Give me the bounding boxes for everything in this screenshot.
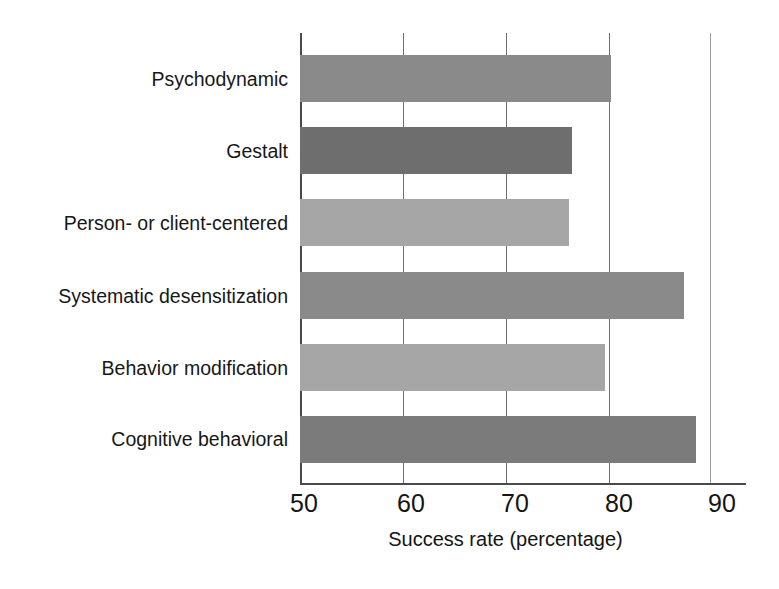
bar-systematic-desensitization [300, 272, 684, 319]
bar-gestalt [300, 127, 572, 174]
category-label-gestalt: Gestalt [0, 140, 288, 163]
bar-chart-figure: Psychodynamic Gestalt Person- or client-… [0, 0, 779, 589]
bar-person-or-client-centered [300, 199, 569, 246]
category-label-behavior-modification: Behavior modification [0, 357, 288, 380]
bar-psychodynamic [300, 55, 611, 102]
gridline-90 [710, 33, 711, 483]
x-axis-title: Success rate (percentage) [300, 528, 711, 551]
x-tick-label-60: 60 [381, 489, 441, 518]
bar-cognitive-behavioral [300, 416, 696, 463]
category-label-psychodynamic: Psychodynamic [0, 68, 288, 91]
x-tick-label-70: 70 [485, 489, 545, 518]
plot-area [300, 33, 711, 483]
bar-behavior-modification [300, 344, 605, 391]
x-tick-label-90: 90 [692, 489, 752, 518]
category-label-systematic-desensitization: Systematic desensitization [0, 285, 288, 308]
category-label-person-or-client-centered: Person- or client-centered [0, 212, 288, 235]
x-axis-line [300, 483, 746, 485]
x-tick-label-80: 80 [589, 489, 649, 518]
category-label-cognitive-behavioral: Cognitive behavioral [0, 428, 288, 451]
x-tick-label-50: 50 [274, 489, 334, 518]
